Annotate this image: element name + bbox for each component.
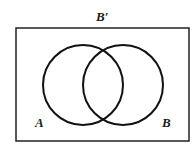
universe-label: B′ <box>95 9 109 24</box>
set-b-label: B <box>161 115 171 130</box>
venn-diagram: B′ A B <box>0 0 194 144</box>
set-a-label: A <box>34 115 44 130</box>
